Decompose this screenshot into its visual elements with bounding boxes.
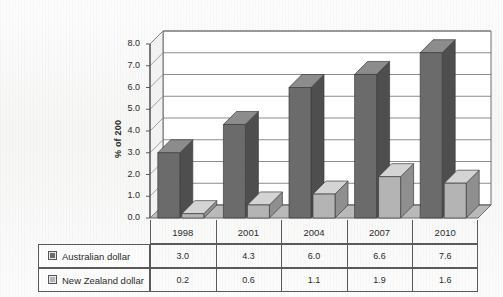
- bar-front-face: [313, 194, 335, 218]
- bar-front-face: [158, 153, 180, 218]
- y-axis-tick-label: 3.0: [110, 147, 140, 157]
- table-cell-r0-c1: 4.3: [216, 251, 282, 261]
- legend-label-0: Australian dollar: [62, 251, 148, 262]
- y-axis-tick-label: 6.0: [110, 82, 140, 92]
- table-cell-r0-c3: 6.6: [347, 251, 413, 261]
- y-axis-tick-label: 5.0: [110, 103, 140, 113]
- bar-front-face: [289, 88, 311, 219]
- x-axis-year-label: 1998: [150, 227, 216, 238]
- y-axis-tick-label: 2.0: [110, 169, 140, 179]
- bar-front-face: [355, 74, 377, 218]
- table-cell-r1-c2: 1.1: [281, 275, 347, 285]
- table-cell-r0-c4: 7.6: [412, 251, 478, 261]
- bar-front-face: [247, 205, 269, 218]
- table-cell-r1-c4: 1.6: [412, 275, 478, 285]
- bar-front-face: [420, 53, 442, 218]
- bar-1998-series1: [158, 140, 193, 218]
- table-cell-r0-c0: 3.0: [150, 251, 216, 261]
- bar-front-face: [182, 214, 204, 218]
- y-axis-tick-label: 7.0: [110, 60, 140, 70]
- bar-front-face: [444, 183, 466, 218]
- light-swatch-icon: [48, 275, 57, 284]
- bar-front-face: [223, 124, 245, 218]
- table-cell-r1-c1: 0.6: [216, 275, 282, 285]
- bar-chart-figure: % of 200 0.01.02.03.04.05.06.07.08.0 199…: [0, 0, 503, 297]
- x-axis-year-label: 2010: [412, 227, 478, 238]
- table-cell-r1-c0: 0.2: [150, 275, 216, 285]
- x-axis-year-label: 2007: [347, 227, 413, 238]
- y-axis-tick-label: 0.0: [110, 212, 140, 222]
- y-axis-tick-label: 1.0: [110, 190, 140, 200]
- bar-front-face: [379, 177, 401, 218]
- dark-swatch-icon: [48, 251, 57, 260]
- table-cell-r0-c2: 6.0: [281, 251, 347, 261]
- y-axis-tick-label: 8.0: [110, 38, 140, 48]
- y-axis-tick-label: 4.0: [110, 125, 140, 135]
- x-axis-year-label: 2004: [281, 227, 347, 238]
- table-cell-r1-c3: 1.9: [347, 275, 413, 285]
- bar-2007-series2: [379, 164, 414, 218]
- legend-label-1: New Zealand dollar: [62, 275, 148, 286]
- x-axis-year-label: 2001: [216, 227, 282, 238]
